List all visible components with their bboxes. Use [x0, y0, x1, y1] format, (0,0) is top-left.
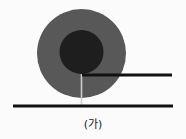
figure-caption: (가) — [0, 118, 186, 131]
figure-container: (가) — [0, 0, 186, 139]
inner-disc — [60, 30, 104, 74]
